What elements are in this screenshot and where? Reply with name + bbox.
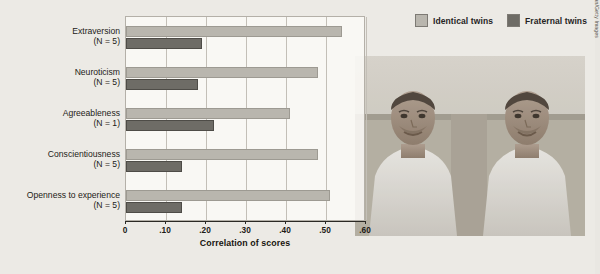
x-tick-label-.60: .60 <box>359 225 371 235</box>
x-tick-label-.10: .10 <box>159 225 171 235</box>
category-name: Extraversion <box>72 26 120 36</box>
x-tick <box>245 221 246 224</box>
category-sample-size: (N = 5) <box>3 200 120 211</box>
x-tick-label-.30: .30 <box>239 225 251 235</box>
legend-label-identical-twins: Identical twins <box>433 16 493 26</box>
x-tick <box>325 221 326 224</box>
bar-identical-twins[interactable] <box>126 108 290 119</box>
legend-swatch-identical-twins <box>415 14 428 27</box>
category-label-agreeableness: Agreeableness(N = 1) <box>3 108 125 129</box>
bar-group <box>126 140 364 181</box>
category-label-conscientiousness: Conscientiousness(N = 5) <box>3 149 125 170</box>
category-name: Conscientiousness <box>48 149 120 159</box>
bar-fraternal-twins[interactable] <box>126 79 198 90</box>
bar-fraternal-twins[interactable] <box>126 38 202 49</box>
category-label-extraversion: Extraversion(N = 5) <box>3 26 125 47</box>
bar-identical-twins[interactable] <box>126 26 342 37</box>
category-sample-size: (N = 1) <box>3 118 120 129</box>
category-label-openness-to-experience: Openness to experience(N = 5) <box>3 190 125 211</box>
photo-credit: © Ray Kachatorian/Getty Images <box>594 0 600 38</box>
x-tick <box>165 221 166 224</box>
category-name: Openness to experience <box>27 190 120 200</box>
bar-fraternal-twins[interactable] <box>126 120 214 131</box>
chart-legend: Identical twins Fraternal twins <box>415 14 587 27</box>
x-tick <box>365 221 366 224</box>
category-sample-size: (N = 5) <box>3 77 120 88</box>
legend-label-fraternal-twins: Fraternal twins <box>525 16 587 26</box>
x-tick <box>125 221 126 224</box>
bar-group <box>126 17 364 58</box>
legend-swatch-fraternal-twins <box>507 14 520 27</box>
category-name: Agreeableness <box>63 108 120 118</box>
legend-item-identical-twins[interactable]: Identical twins <box>415 14 493 27</box>
x-tick <box>205 221 206 224</box>
bar-group <box>126 181 364 222</box>
bar-identical-twins[interactable] <box>126 67 318 78</box>
gridline-.60 <box>366 17 367 220</box>
bar-group <box>126 99 364 140</box>
bar-fraternal-twins[interactable] <box>126 202 182 213</box>
x-tick-label-0: 0 <box>123 225 128 235</box>
legend-item-fraternal-twins[interactable]: Fraternal twins <box>507 14 587 27</box>
bar-identical-twins[interactable] <box>126 190 330 201</box>
x-tick-label-.50: .50 <box>319 225 331 235</box>
bar-group <box>126 58 364 99</box>
category-label-neuroticism: Neuroticism(N = 5) <box>3 67 125 88</box>
category-sample-size: (N = 5) <box>3 159 120 170</box>
category-sample-size: (N = 5) <box>3 36 120 47</box>
plot-area <box>125 16 365 221</box>
x-tick-label-.40: .40 <box>279 225 291 235</box>
bar-identical-twins[interactable] <box>126 149 318 160</box>
x-axis-title: Correlation of scores <box>125 238 365 248</box>
x-tick-label-.20: .20 <box>199 225 211 235</box>
category-name: Neuroticism <box>75 67 120 77</box>
x-tick <box>285 221 286 224</box>
bar-fraternal-twins[interactable] <box>126 161 182 172</box>
